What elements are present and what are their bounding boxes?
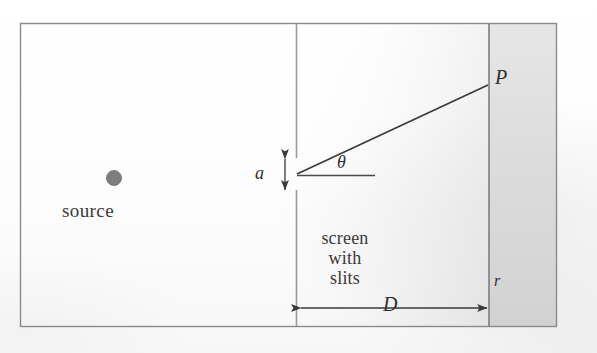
figure-root: source a θ P D r screen with slits [0,0,597,353]
source-dot [107,171,122,186]
screen-with-slits-label: screen with slits [303,228,387,288]
screen-label-line-3: slits [303,268,387,288]
radius-r-label: r [494,272,500,290]
source-label: source [62,200,114,221]
diagram-canvas [0,0,597,353]
slit-width-label: a [255,163,264,183]
distance-d-label: D [383,293,397,315]
screen-label-line-2: with [303,248,387,268]
angle-theta-label: θ [337,152,346,172]
screen-label-line-1: screen [303,228,387,248]
point-p-label: P [495,66,507,88]
